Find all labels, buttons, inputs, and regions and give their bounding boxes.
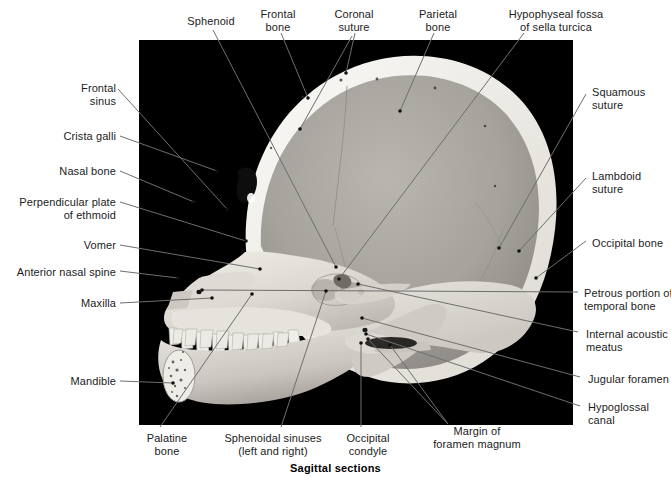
label-line: Coronal (324, 8, 384, 21)
label-line: sinus (40, 95, 116, 108)
foramen-magnum-opening (365, 337, 417, 349)
label-line: Hypoglossal (588, 401, 670, 414)
label-crista-galli: Crista galli (34, 130, 116, 143)
label-squamous-suture: Squamoussuture (592, 86, 668, 111)
label-line: meatus (586, 341, 670, 354)
label-line: Nasal bone (34, 165, 116, 178)
label-line: Palatine (131, 432, 203, 445)
label-vomer: Vomer (50, 239, 116, 252)
crista-galli-highlight (247, 193, 255, 203)
label-line: suture (592, 99, 668, 112)
label-line: bone (131, 445, 203, 458)
label-hypoglossal-canal: Hypoglossalcanal (588, 401, 670, 426)
label-anterior-nasal-spine: Anterior nasal spine (8, 266, 116, 279)
label-line: (left and right) (212, 445, 334, 458)
label-line: Margin of (417, 425, 537, 438)
label-line: Maxilla (48, 297, 116, 310)
label-line: of ethmoid (8, 209, 116, 222)
label-line: Vomer (50, 239, 116, 252)
label-line: bone (248, 21, 308, 34)
label-line: Lambdoid (592, 170, 668, 183)
label-line: Frontal (40, 82, 116, 95)
label-line: suture (324, 21, 384, 34)
label-line: Jugular foramen (588, 373, 671, 386)
label-margin-foramen-magnum: Margin offoramen magnum (417, 425, 537, 450)
label-frontal-sinus: Frontalsinus (40, 82, 116, 107)
label-line: Sphenoid (176, 15, 246, 28)
label-line: of sella turcica (492, 21, 620, 34)
label-line: Parietal (408, 8, 468, 21)
label-petrous-portion: Petrous portion oftemporal bone (584, 287, 671, 312)
label-mandible: Mandible (42, 375, 116, 388)
label-line: bone (408, 21, 468, 34)
label-line: Crista galli (34, 130, 116, 143)
label-line: Anterior nasal spine (8, 266, 116, 279)
label-nasal-bone: Nasal bone (34, 165, 116, 178)
skull-photograph (139, 40, 573, 425)
anatomy-figure: SphenoidFrontalboneCoronalsutureParietal… (0, 0, 671, 487)
label-line: foramen magnum (417, 438, 537, 451)
label-lambdoid-suture: Lambdoidsuture (592, 170, 668, 195)
skull-illustration (139, 40, 573, 425)
label-line: Squamous (592, 86, 668, 99)
label-line: Occipital bone (592, 237, 671, 250)
label-frontal-bone: Frontalbone (248, 8, 308, 33)
label-line: suture (592, 183, 668, 196)
label-occipital-bone: Occipital bone (592, 237, 671, 250)
figure-caption: Sagittal sections (0, 462, 671, 474)
label-parietal-bone: Parietalbone (408, 8, 468, 33)
label-line: Sphenoidal sinuses (212, 432, 334, 445)
label-palatine-bone: Palatinebone (131, 432, 203, 457)
label-jugular-foramen: Jugular foramen (588, 373, 671, 386)
label-sphenoid: Sphenoid (176, 15, 246, 28)
label-line: temporal bone (584, 300, 671, 313)
label-line: Perpendicular plate (8, 196, 116, 209)
label-line: Occipital (333, 432, 403, 445)
label-hypophyseal-fossa: Hypophyseal fossaof sella turcica (492, 8, 620, 33)
label-internal-acoustic-meatus: Internal acousticmeatus (586, 328, 670, 353)
label-line: Hypophyseal fossa (492, 8, 620, 21)
label-perpendicular-plate: Perpendicular plateof ethmoid (8, 196, 116, 221)
label-line: Mandible (42, 375, 116, 388)
label-occipital-condyle: Occipitalcondyle (333, 432, 403, 457)
label-line: Petrous portion of (584, 287, 671, 300)
jugular-foramen-opening (362, 328, 367, 332)
label-line: Frontal (248, 8, 308, 21)
label-coronal-suture: Coronalsuture (324, 8, 384, 33)
label-sphenoidal-sinuses: Sphenoidal sinuses(left and right) (212, 432, 334, 457)
label-line: Internal acoustic (586, 328, 670, 341)
label-line: canal (588, 414, 670, 427)
label-line: condyle (333, 445, 403, 458)
foramen-marker-a (196, 290, 201, 294)
label-maxilla: Maxilla (48, 297, 116, 310)
